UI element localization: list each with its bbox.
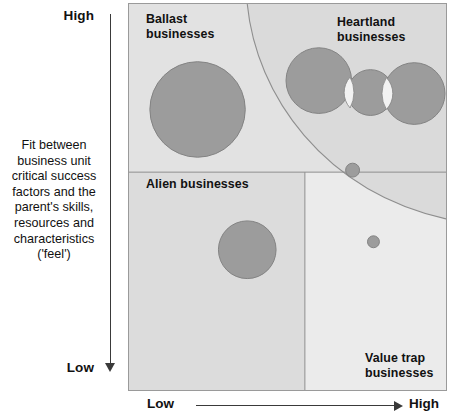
bubble-ballast-1 [150, 62, 245, 158]
y-axis-arrowhead-icon [105, 363, 115, 372]
y-axis-line [110, 14, 111, 366]
bubble-value-trap-1 [367, 236, 379, 248]
bubble-alien-1 [218, 221, 276, 279]
y-axis-caption: Fit between business unit critical succe… [2, 138, 106, 263]
x-axis: Low High [128, 394, 460, 418]
quadrant-label-heartland: Heartland businesses [337, 15, 406, 44]
quadrant-label-alien: Alien businesses [146, 177, 249, 192]
y-axis: High Low Fit between business unit criti… [0, 0, 128, 418]
matrix-canvas [129, 4, 446, 390]
bubble-heartland-4 [346, 163, 360, 177]
bubble-heartland-1 [286, 48, 352, 114]
ashridge-portfolio-matrix: High Low Fit between business unit criti… [0, 0, 460, 418]
y-axis-low-label: Low [67, 360, 94, 375]
x-axis-line [196, 405, 396, 406]
quadrant-alien-region [129, 172, 305, 390]
y-axis-high-label: High [64, 8, 94, 23]
x-axis-low-label: Low [147, 396, 174, 411]
x-axis-arrowhead-icon [394, 401, 403, 411]
x-axis-high-label: High [409, 396, 439, 411]
quadrant-label-ballast: Ballast businesses [146, 12, 215, 41]
plot-area: Ballast businesses Heartland businesses … [128, 3, 447, 391]
quadrant-label-value-trap: Value trap businesses [365, 351, 434, 380]
